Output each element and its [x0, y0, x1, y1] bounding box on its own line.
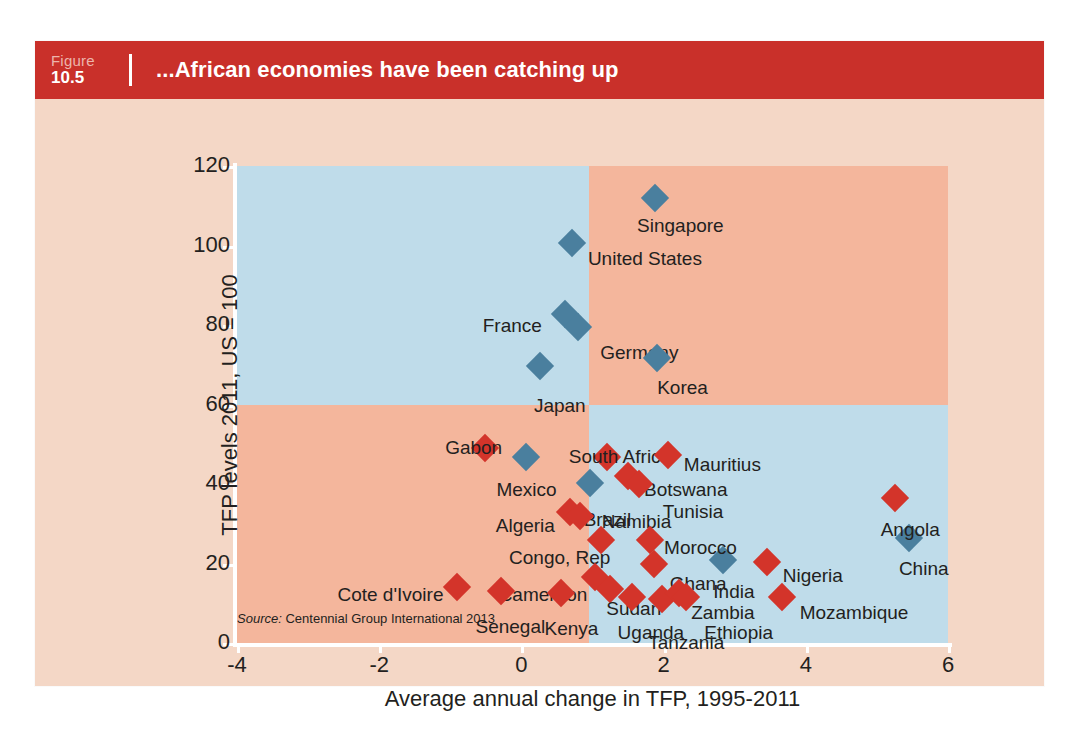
data-point-label: United States	[588, 249, 702, 268]
figure-title: ...African economies have been catching …	[156, 57, 619, 83]
x-tick-label: 4	[776, 652, 836, 678]
data-point-label: Nigeria	[783, 566, 843, 585]
chart-area: 020406080100120 -4-20246 SingaporeUnited…	[35, 99, 1044, 686]
data-point-label: Japan	[534, 396, 586, 415]
source-text: Centennial Group International 2013	[285, 611, 495, 626]
data-point-label: Mexico	[496, 480, 556, 499]
data-point-label: Morocco	[664, 538, 737, 557]
y-tick-label: 20	[160, 550, 230, 576]
data-point-label: Cote d'Ivoire	[337, 585, 443, 604]
data-point-label: Gabon	[445, 438, 502, 457]
y-tick-label: 100	[160, 232, 230, 258]
banner-divider	[129, 54, 132, 86]
x-tick-label: -2	[349, 652, 409, 678]
data-point-label: Singapore	[637, 216, 724, 235]
scatter-plot: 020406080100120 -4-20246 SingaporeUnited…	[237, 166, 948, 643]
x-tick-label: 0	[491, 652, 551, 678]
figure-number: 10.5	[51, 69, 129, 87]
x-tick-label: 2	[634, 652, 694, 678]
data-point-label: France	[483, 316, 542, 335]
x-tick-label: -4	[207, 652, 267, 678]
figure-number-block: Figure 10.5	[35, 53, 129, 87]
data-point-label: Tunisia	[663, 502, 724, 521]
data-point-label: Zambia	[691, 603, 754, 622]
x-axis-line	[233, 643, 952, 647]
data-point-label: Ethiopia	[704, 623, 773, 642]
data-point-label: China	[899, 559, 949, 578]
figure-banner: Figure 10.5 ...African economies have be…	[35, 41, 1044, 99]
data-point-marker[interactable]	[512, 443, 540, 471]
data-point-marker[interactable]	[443, 573, 471, 601]
y-axis-title: TFP levels 2011, US = 100	[217, 274, 243, 536]
source-prefix: Source:	[237, 611, 282, 626]
x-axis-title: Average annual change in TFP, 1995-2011	[237, 686, 948, 712]
data-point-label: Korea	[657, 378, 708, 397]
x-tick-label: 6	[918, 652, 978, 678]
data-point-marker[interactable]	[641, 184, 669, 212]
data-point-label: Mozambique	[800, 603, 909, 622]
y-tick-label: 120	[160, 152, 230, 178]
data-point-label: Kenya	[545, 619, 599, 638]
data-point-label: Mauritius	[684, 455, 761, 474]
data-point-label: Botswana	[644, 480, 727, 499]
figure-card: Figure 10.5 ...African economies have be…	[35, 41, 1044, 686]
source-note: Source: Centennial Group International 2…	[237, 611, 495, 626]
data-point-label: Algeria	[496, 516, 555, 535]
data-point-label: Angola	[881, 520, 940, 539]
data-point-label: Namibia	[602, 512, 672, 531]
figure-label-word: Figure	[51, 53, 129, 69]
